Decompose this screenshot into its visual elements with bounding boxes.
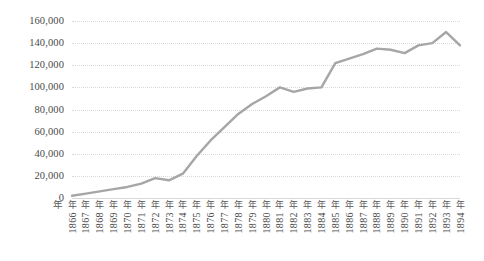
x-axis-tick-year: 1892 <box>427 212 438 234</box>
x-axis-tick-label: 年1876 <box>204 200 218 234</box>
x-axis-tick-unit: 年 <box>176 200 190 211</box>
x-axis-tick-year: 1884 <box>316 212 327 234</box>
x-axis-tick-label: 年1891 <box>411 200 425 234</box>
x-axis-tick-label: 年1866 <box>65 200 79 234</box>
x-axis-tick-unit: 年 <box>384 200 398 211</box>
x-axis-tick-label: 年1884 <box>314 200 328 234</box>
y-axis-tick-label: 60,000 <box>0 126 64 137</box>
x-axis-tick-unit: 年 <box>190 200 204 211</box>
x-axis-tick-year: 1880 <box>261 212 272 234</box>
x-axis-tick-year: 1874 <box>177 212 188 234</box>
x-axis-tick-label: 年1883 <box>301 200 315 234</box>
x-axis-tick-label: 年1880 <box>259 200 273 234</box>
x-axis-tick-year: 1878 <box>233 212 244 234</box>
line-chart: 160,000140,000120,000100,00080,00060,000… <box>0 0 484 261</box>
x-axis-tick-unit: 年 <box>273 200 287 211</box>
x-axis-tick-year: 1887 <box>358 212 369 234</box>
x-axis-tick-label: 年1870 <box>120 200 134 234</box>
x-axis-tick-year: 1891 <box>413 212 424 234</box>
x-axis-tick-label: 年1872 <box>148 200 162 234</box>
y-axis-tick-label: 80,000 <box>0 104 64 115</box>
x-axis-tick-unit: 年 <box>411 200 425 211</box>
x-axis-tick-year: 1877 <box>219 212 230 234</box>
x-axis-tick-label: 年1869 <box>107 200 121 234</box>
x-axis-tick-year: 1875 <box>191 212 202 234</box>
x-axis-tick-unit: 年 <box>107 200 121 211</box>
x-axis-tick-label: 年1868 <box>93 200 107 234</box>
x-axis-tick-unit: 年 <box>148 200 162 211</box>
x-axis-tick-label: 年1878 <box>231 200 245 234</box>
x-axis-tick-unit: 年 <box>245 200 259 211</box>
x-axis-tick-year: 1886 <box>344 212 355 234</box>
x-axis-tick-year: 1867 <box>80 212 91 234</box>
x-axis-tick-unit: 年 <box>370 200 384 211</box>
x-axis-tick-unit: 年 <box>79 200 93 211</box>
x-axis-tick-unit: 年 <box>217 200 231 211</box>
x-axis-tick-label: 年1867 <box>79 200 93 234</box>
x-axis-tick-unit: 年 <box>301 200 315 211</box>
x-axis-tick-unit: 年 <box>120 200 134 211</box>
x-axis-tick-year: 1888 <box>371 212 382 234</box>
x-axis-tick-unit: 年 <box>287 200 301 211</box>
x-axis-labels: 年1866年1867年1868年1869年1870年1871年1872年1873… <box>72 200 460 261</box>
x-axis-tick-label: 年1894 <box>453 200 467 234</box>
x-axis-tick-year: 1872 <box>150 212 161 234</box>
series-line <box>72 21 460 198</box>
y-axis-tick-label: 20,000 <box>0 171 64 182</box>
plot-area <box>72 21 460 198</box>
x-axis-tick-label: 年1892 <box>425 200 439 234</box>
x-axis-tick-label: 年1887 <box>356 200 370 234</box>
x-axis-tick-label: 年1888 <box>370 200 384 234</box>
x-axis-tick-unit: 年 <box>439 200 453 211</box>
x-axis-tick-label: 年1879 <box>245 200 259 234</box>
x-axis-tick-year: 1885 <box>330 212 341 234</box>
x-axis-tick-year: 1882 <box>288 212 299 234</box>
x-axis-tick-label: 年1882 <box>287 200 301 234</box>
x-axis-tick-year: 1893 <box>441 212 452 234</box>
x-axis-tick-year: 1879 <box>247 212 258 234</box>
y-axis-tick-label: 160,000 <box>0 16 64 27</box>
x-axis-tick-unit: 年 <box>328 200 342 211</box>
x-axis-tick-year: 1894 <box>455 212 466 234</box>
x-axis-tick-year: 1881 <box>274 212 285 234</box>
x-axis-tick-label: 年1871 <box>134 200 148 234</box>
y-axis-tick-label: 100,000 <box>0 82 64 93</box>
x-axis-tick-unit: 年 <box>356 200 370 211</box>
x-axis-baseline <box>72 198 460 199</box>
x-axis-tick-unit: 年 <box>398 200 412 211</box>
x-axis-tick-unit: 年 <box>453 200 467 211</box>
x-axis-tick-year: 1869 <box>108 212 119 234</box>
y-axis-tick-label: 120,000 <box>0 60 64 71</box>
x-axis-tick-year: 1870 <box>122 212 133 234</box>
x-axis-tick-label: 年1874 <box>176 200 190 234</box>
x-axis-tick-label: 年1889 <box>384 200 398 234</box>
y-axis-tick-label: 140,000 <box>0 38 64 49</box>
y-axis-labels: 160,000140,000120,000100,00080,00060,000… <box>0 0 64 261</box>
x-axis-tick-year: 1873 <box>164 212 175 234</box>
x-axis-tick-label: 年1885 <box>328 200 342 234</box>
x-axis-tick-year: 1868 <box>94 212 105 234</box>
x-axis-tick-year: 1876 <box>205 212 216 234</box>
x-axis-tick-unit: 年 <box>65 200 79 211</box>
x-axis-tick-unit: 年 <box>342 200 356 211</box>
x-axis-tick-year: 1871 <box>136 212 147 234</box>
x-axis-tick-unit: 年 <box>259 200 273 211</box>
x-axis-tick-label: 年1886 <box>342 200 356 234</box>
y-axis-tick-label: 40,000 <box>0 149 64 160</box>
x-axis-tick-unit: 年 <box>425 200 439 211</box>
x-axis-tick-year: 1883 <box>302 212 313 234</box>
x-axis-tick-unit: 年 <box>93 200 107 211</box>
x-axis-tick-unit: 年 <box>231 200 245 211</box>
x-axis-tick-label: 年1877 <box>217 200 231 234</box>
x-axis-tick-year: 1890 <box>399 212 410 234</box>
x-axis-tick-year: 1866 <box>67 212 78 234</box>
x-axis-tick-unit: 年 <box>204 200 218 211</box>
x-axis-tick-label: 年1875 <box>190 200 204 234</box>
x-axis-tick-unit: 年 <box>162 200 176 211</box>
x-axis-tick-label: 年1890 <box>398 200 412 234</box>
x-axis-tick-unit: 年 <box>134 200 148 211</box>
x-axis-tick-label: 年1893 <box>439 200 453 234</box>
x-axis-tick-year: 1889 <box>385 212 396 234</box>
x-axis-tick-unit: 年 <box>314 200 328 211</box>
x-axis-tick-label: 年1873 <box>162 200 176 234</box>
